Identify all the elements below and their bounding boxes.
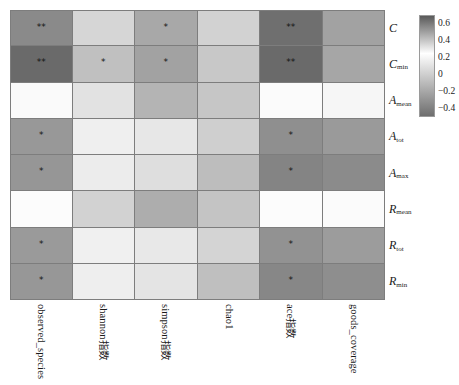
heatmap-cell [73,228,136,264]
row-label-axis: CCminAmeanAtotAmaxRmeanRtotRmin [388,10,422,300]
row-label-base: A [389,93,396,108]
heatmap-cell [135,191,198,227]
row-label-base: A [389,129,396,144]
heatmap-cell [323,10,386,46]
colorbar-gradient [420,16,434,116]
row-label-c-min: Cmin [388,46,422,82]
row-label-subscript: mean [396,208,411,216]
row-label-subscript: mean [396,100,411,108]
colorbar-tick: 0.2 [438,53,450,63]
heatmap-cell [135,264,198,300]
heatmap-cell [323,83,386,119]
row-label-r-tot: Rtot [388,228,422,264]
column-label-axis: observed_speciesshannon指数simpson指数chao1a… [10,302,385,385]
heatmap-cell: * [10,264,73,300]
heatmap-cell: * [260,155,323,191]
significance-marker: * [39,167,44,176]
heatmap-cell [135,228,198,264]
heatmap-cell: * [135,46,198,82]
heatmap-cell [198,191,261,227]
heatmap-cell: * [10,228,73,264]
heatmap-cell [260,191,323,227]
heatmap-cell [73,10,136,46]
heatmap-cell: * [260,228,323,264]
significance-marker: * [101,58,106,67]
heatmap-cell: ** [260,46,323,82]
heatmap-grid: ******************* [10,10,385,300]
significance-marker: * [289,131,294,140]
heatmap-cell [323,228,386,264]
row-label-subscript: min [396,281,407,289]
colorbar [419,15,435,117]
column-label-wrap: ace指数 [260,302,323,385]
heatmap-cell [260,83,323,119]
heatmap-cell: ** [260,10,323,46]
significance-marker: * [289,240,294,249]
heatmap-cell [73,264,136,300]
heatmap-cell [135,83,198,119]
row-label-subscript: min [397,63,408,71]
row-label-c: C [388,10,422,46]
colorbar-tick: −0.2 [438,87,455,97]
colorbar-tick-labels: 0.60.40.20−0.2−0.4 [438,9,459,123]
column-label-wrap: shannon指数 [73,302,136,385]
heatmap-cell: * [260,264,323,300]
column-label-wrap: chao1 [198,302,261,385]
row-label-base: A [389,166,396,181]
significance-marker: ** [37,23,46,32]
figure-root: ******************* CCminAmeanAtotAmaxRm… [0,0,459,385]
heatmap-cell [73,191,136,227]
colorbar-tick: −0.4 [438,104,455,114]
heatmap-cell [323,155,386,191]
heatmap-cell [73,119,136,155]
row-label-base: R [389,202,396,217]
heatmap-cell [198,264,261,300]
significance-marker: * [164,58,169,67]
column-label-3: chao1 [223,304,234,330]
heatmap-cell [198,83,261,119]
colorbar-tick: 0 [438,70,443,80]
significance-marker: * [39,131,44,140]
heatmap-cell [198,155,261,191]
column-label-wrap: simpson指数 [135,302,198,385]
heatmap-cell [10,191,73,227]
significance-marker: ** [286,23,295,32]
row-label-base: R [389,238,396,253]
significance-marker: * [39,276,44,285]
row-label-a-max: Amax [388,155,422,191]
heatmap-cell [323,46,386,82]
column-label-wrap: goods_coverage [323,302,386,385]
heatmap-cell [198,10,261,46]
column-label-5: goods_coverage [348,304,359,374]
heatmap-cell: ** [10,10,73,46]
row-label-base: C [389,57,397,72]
row-label-base: C [389,21,397,36]
heatmap-cell [198,46,261,82]
significance-marker: ** [37,58,46,67]
heatmap-cell [323,119,386,155]
column-label-0: observed_species [36,304,47,379]
colorbar-tick: 0.6 [438,19,450,29]
heatmap-cell: * [10,155,73,191]
heatmap-cell [198,228,261,264]
column-label-2: simpson指数 [159,304,174,360]
significance-marker: * [289,167,294,176]
heatmap-cell [135,119,198,155]
row-label-subscript: tot [396,245,403,253]
heatmap-cell [10,83,73,119]
heatmap-cell [323,264,386,300]
significance-marker: * [39,240,44,249]
heatmap-cell [73,155,136,191]
heatmap-cell: ** [10,46,73,82]
row-label-r-mean: Rmean [388,191,422,227]
heatmap-cell [73,83,136,119]
row-label-a-tot: Atot [388,119,422,155]
column-label-1: shannon指数 [96,304,111,360]
heatmap-cell [198,119,261,155]
heatmap-cell: * [73,46,136,82]
row-label-base: R [389,274,396,289]
column-label-wrap: observed_species [10,302,73,385]
row-label-r-min: Rmin [388,264,422,300]
colorbar-tick: 0.4 [438,36,450,46]
significance-marker: ** [286,58,295,67]
